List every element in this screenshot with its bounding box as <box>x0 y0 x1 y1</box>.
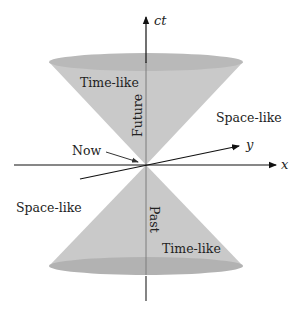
space-like-right-label: Space-like <box>216 110 282 125</box>
now-label: Now <box>72 143 101 158</box>
time-like-past-label: Time-like <box>162 241 221 256</box>
time-like-future-label: Time-like <box>80 75 139 90</box>
now-arrow <box>106 152 138 162</box>
future-label: Future <box>130 94 145 137</box>
past-label: Past <box>147 206 162 233</box>
ct-axis-label: ct <box>154 13 167 28</box>
light-cone-diagram: ct x y Now Time-like Future Space-like S… <box>0 0 304 320</box>
x-axis-label: x <box>281 157 289 172</box>
y-axis <box>80 146 239 179</box>
space-like-left-label: Space-like <box>16 200 82 215</box>
y-axis-label: y <box>245 137 254 152</box>
